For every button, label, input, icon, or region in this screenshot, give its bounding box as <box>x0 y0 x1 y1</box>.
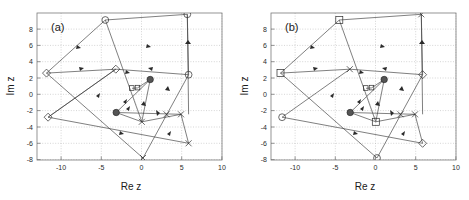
panel-b: -10 -5 0 5 10 -8 -6 -4 -2 0 2 4 6 8 Re z… <box>234 0 469 200</box>
ytick-label: 4 <box>263 58 267 65</box>
xtick-label: 10 <box>218 164 226 171</box>
xtick-label: -5 <box>332 164 338 171</box>
marker-x <box>139 111 192 161</box>
xtick-label: -10 <box>56 164 66 171</box>
ytick-label: 0 <box>29 91 33 98</box>
ytick-label: -2 <box>27 107 33 114</box>
panel-a-canvas: -10 -5 0 5 10 -8 -6 -4 -2 0 2 4 6 8 Re z… <box>0 0 235 200</box>
ytick-label: -4 <box>27 124 33 131</box>
ytick-label: 2 <box>263 75 267 82</box>
x-axis-label: Re z <box>355 181 376 192</box>
y-axis-label: Im z <box>5 77 16 96</box>
ytick-label: -2 <box>261 107 267 114</box>
ticks-b <box>271 29 456 160</box>
marker-circle <box>279 114 381 162</box>
ytick-label: -6 <box>261 140 267 147</box>
ytick-label: 0 <box>263 91 267 98</box>
orbit-group-a <box>43 11 193 161</box>
ytick-label: -8 <box>261 156 267 163</box>
ytick-label: 8 <box>29 26 33 33</box>
orbit-group-b <box>277 11 427 161</box>
ytick-label: 2 <box>29 75 33 82</box>
panel-label-a: (a) <box>51 21 64 33</box>
panel-label-b: (b) <box>285 21 298 33</box>
ytick-label: -6 <box>27 140 33 147</box>
ytick-label: -8 <box>27 156 33 163</box>
ytick-label: 8 <box>263 26 267 33</box>
ytick-label: -4 <box>261 124 267 131</box>
xtick-label: -10 <box>290 164 300 171</box>
panel-a: -10 -5 0 5 10 -8 -6 -4 -2 0 2 4 6 8 Re z… <box>0 0 235 200</box>
ytick-label: 4 <box>29 58 33 65</box>
figure-root: -10 -5 0 5 10 -8 -6 -4 -2 0 2 4 6 8 Re z… <box>0 0 469 200</box>
x-axis-label: Re z <box>121 181 142 192</box>
ytick-label: 6 <box>29 42 33 49</box>
xtick-label: 5 <box>414 164 418 171</box>
xtick-label: 0 <box>140 164 144 171</box>
ytick-label: 6 <box>263 42 267 49</box>
panel-b-canvas: -10 -5 0 5 10 -8 -6 -4 -2 0 2 4 6 8 Re z… <box>234 0 469 200</box>
y-axis-label: Im z <box>239 77 250 96</box>
ticks-a <box>37 29 222 160</box>
xtick-label: 5 <box>180 164 184 171</box>
xtick-label: 0 <box>374 164 378 171</box>
xtick-label: 10 <box>452 164 460 171</box>
xtick-label: -5 <box>98 164 104 171</box>
